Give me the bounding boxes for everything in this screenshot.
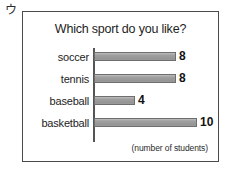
- bar-row: baseball 4: [23, 92, 218, 114]
- bar-tennis: [94, 74, 176, 83]
- chart-caption: (number of students): [132, 143, 208, 153]
- figure-screenshot: ウ Which sport do you like? soccer 8 tenn…: [0, 0, 235, 173]
- bar-value-label: 4: [138, 93, 145, 107]
- bar-soccer: [94, 52, 176, 61]
- bar-value-label: 8: [179, 71, 186, 85]
- bar-category-label: basketball: [23, 117, 89, 129]
- bar-category-label: tennis: [23, 73, 89, 85]
- chart-title: Which sport do you like?: [23, 22, 218, 36]
- bar-baseball: [94, 96, 135, 105]
- bar-category-label: baseball: [23, 95, 89, 107]
- bar-value-label: 8: [179, 49, 186, 63]
- bar-row: tennis 8: [23, 70, 218, 92]
- bar-value-label: 10: [200, 115, 213, 129]
- bar-category-label: soccer: [23, 51, 89, 63]
- item-marker-label: ウ: [5, 4, 17, 16]
- chart-frame: Which sport do you like? soccer 8 tennis…: [22, 11, 219, 162]
- bar-row: soccer 8: [23, 48, 218, 70]
- bar-row: basketball 10: [23, 114, 218, 136]
- plot-area: soccer 8 tennis 8 baseball 4 basketball …: [23, 48, 218, 142]
- bar-basketball: [94, 118, 197, 127]
